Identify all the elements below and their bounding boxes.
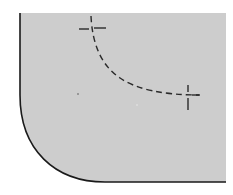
speck — [77, 93, 79, 95]
plate-shape — [20, 13, 226, 182]
speck — [136, 104, 137, 105]
diagram-canvas — [0, 0, 233, 195]
